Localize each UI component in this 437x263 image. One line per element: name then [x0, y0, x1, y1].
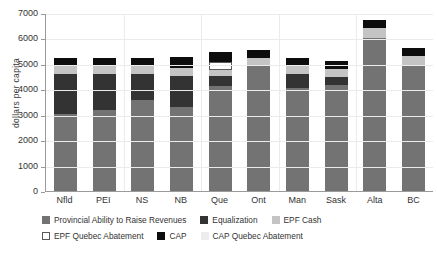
bar-slot-ns [123, 14, 162, 191]
legend-row-1: Provincial Ability to Raise RevenuesEqua… [42, 215, 437, 225]
bar-segment [93, 66, 116, 74]
x-axis-label-alta: Alta [355, 195, 394, 205]
bar-slot-nfld [46, 14, 85, 191]
bar-segment [363, 38, 386, 191]
legend-label: Provincial Ability to Raise Revenues [54, 215, 186, 225]
stacked-bar-chart: dollars per capita NfldPEINSNBQueOntManS… [0, 0, 437, 263]
gridline-horizontal [46, 39, 433, 40]
stacked-bar[interactable] [209, 52, 232, 191]
bar-segment [209, 76, 232, 86]
legend-row-2: EPF Quebec AbatementCAPCAP Quebec Abatem… [42, 231, 437, 241]
bar-slot-alta [356, 14, 395, 191]
y-axis-tick-label: 3000 [0, 111, 38, 120]
bar-slot-bc [394, 14, 433, 191]
stacked-bar[interactable] [131, 58, 154, 191]
y-axis-tick-mark [41, 141, 45, 142]
legend-item[interactable]: CAP [157, 231, 186, 241]
y-axis-tick-label: 7000 [0, 9, 38, 18]
gridline-vertical [356, 14, 357, 191]
bar-segment [363, 20, 386, 28]
bar-slot-man [278, 14, 317, 191]
x-axis-label-pei: PEI [84, 195, 123, 205]
stacked-bar[interactable] [247, 50, 270, 191]
bar-slot-ont [240, 14, 279, 191]
x-axis-label-bc: BC [394, 195, 433, 205]
bar-segment [131, 66, 154, 75]
plot-area [45, 14, 433, 192]
bar-slot-que [201, 14, 240, 191]
legend-item[interactable]: CAP Quebec Abatement [201, 231, 303, 241]
x-axis-label-nb: NB [161, 195, 200, 205]
y-axis-tick-mark [41, 116, 45, 117]
x-axis-label-que: Que [200, 195, 239, 205]
y-axis-tick-label: 5000 [0, 60, 38, 69]
chart-legend: Provincial Ability to Raise RevenuesEqua… [42, 215, 437, 247]
bar-segment [286, 88, 309, 191]
x-axis-label-sask: Sask [317, 195, 356, 205]
x-axis-label-man: Man [278, 195, 317, 205]
gridline-horizontal [46, 141, 433, 142]
gridline-horizontal [46, 90, 433, 91]
stacked-bar[interactable] [93, 58, 116, 191]
x-axis-label-ont: Ont [239, 195, 278, 205]
y-axis-tick-label: 1000 [0, 162, 38, 171]
y-axis-tick-mark [41, 90, 45, 91]
y-axis-tick-label: 4000 [0, 85, 38, 94]
stacked-bar[interactable] [54, 58, 77, 191]
y-axis-tick-mark [41, 14, 45, 15]
legend-item[interactable]: Equalization [200, 215, 257, 225]
legend-item[interactable]: EPF Cash [272, 215, 322, 225]
gridline-horizontal [46, 14, 433, 15]
legend-swatch-icon [200, 216, 208, 224]
bar-segment [209, 62, 232, 70]
legend-label: Equalization [212, 215, 257, 225]
y-axis-tick-mark [41, 167, 45, 168]
legend-item[interactable]: Provincial Ability to Raise Revenues [42, 215, 186, 225]
legend-swatch-icon [42, 232, 50, 240]
legend-item[interactable]: EPF Quebec Abatement [42, 231, 143, 241]
x-axis-label-ns: NS [123, 195, 162, 205]
y-axis-tick-label: 0 [0, 187, 38, 196]
gridline-horizontal [46, 167, 433, 168]
bar-segment [93, 110, 116, 191]
bar-segment [93, 74, 116, 110]
y-axis-tick-mark [41, 192, 45, 193]
bar-segment [54, 74, 77, 114]
bar-segment [402, 65, 425, 191]
bar-segment [54, 66, 77, 74]
legend-label: CAP [169, 231, 186, 241]
legend-swatch-icon [42, 216, 50, 224]
y-axis-tick-label: 6000 [0, 34, 38, 43]
legend-swatch-icon [157, 232, 165, 240]
gridline-horizontal [46, 65, 433, 66]
bar-slot-pei [85, 14, 124, 191]
stacked-bar[interactable] [363, 20, 386, 191]
stacked-bar[interactable] [325, 61, 348, 191]
x-axis-labels: NfldPEINSNBQueOntManSaskAltaBC [45, 195, 433, 205]
stacked-bar[interactable] [286, 58, 309, 191]
stacked-bar[interactable] [170, 57, 193, 191]
bar-segment [286, 74, 309, 88]
bar-segment [402, 48, 425, 56]
bar-segment [170, 107, 193, 191]
gridline-vertical [279, 14, 280, 191]
bar-segment [247, 65, 270, 191]
gridline-vertical [124, 14, 125, 191]
bar-segment [325, 77, 348, 86]
legend-label: CAP Quebec Abatement [213, 231, 303, 241]
bar-segment [402, 56, 425, 65]
bar-segment [170, 57, 193, 68]
gridline-vertical [201, 14, 202, 191]
bar-segment [325, 69, 348, 77]
bar-slot-nb [162, 14, 201, 191]
bar-segment [325, 85, 348, 191]
stacked-bar[interactable] [402, 48, 425, 191]
legend-swatch-icon [201, 232, 209, 240]
legend-label: EPF Cash [284, 215, 322, 225]
bar-series-container [46, 14, 433, 191]
bar-segment [131, 100, 154, 191]
legend-label: EPF Quebec Abatement [54, 231, 143, 241]
y-axis-tick-label: 2000 [0, 136, 38, 145]
bar-slot-sask [317, 14, 356, 191]
bar-segment [247, 50, 270, 58]
